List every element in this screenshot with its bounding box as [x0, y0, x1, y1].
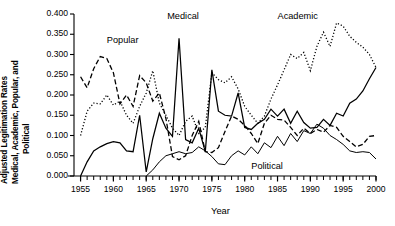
y-axis-tick-label: 0.050	[32, 150, 68, 160]
y-axis-tick-label: 0.300	[32, 49, 68, 59]
x-axis-tick-label: 1970	[163, 184, 195, 194]
x-axis-tick-label: 1975	[196, 184, 228, 194]
series-label-political: Political	[251, 161, 283, 171]
y-axis-tick-label: 0.400	[32, 8, 68, 18]
y-axis-tick-label: 0.200	[32, 89, 68, 99]
x-axis-tick-label: 1985	[262, 184, 294, 194]
x-axis-tick-label: 1990	[294, 184, 326, 194]
chart-figure: Adjusted Legitimation Rates Medical, Aca…	[0, 0, 395, 226]
y-axis-tick-label: 0.100	[32, 130, 68, 140]
series-line-popular	[81, 57, 376, 160]
y-axis-tick-label: 0.250	[32, 69, 68, 79]
series-label-academic: Academic	[278, 11, 318, 21]
y-axis-tick-label: 0.000	[32, 170, 68, 180]
y-axis-tick-label: 0.150	[32, 109, 68, 119]
y-axis-tick-label: 0.350	[32, 28, 68, 38]
x-axis-tick-label: 1960	[97, 184, 129, 194]
series-label-popular: Popular	[107, 35, 139, 45]
series-label-medical: Medical	[167, 11, 199, 21]
x-axis-title: Year	[211, 205, 230, 216]
x-axis-tick-label: 1955	[65, 184, 97, 194]
x-axis-tick-label: 1980	[229, 184, 261, 194]
x-axis-tick-label: 2000	[360, 184, 392, 194]
series-line-medical	[81, 38, 376, 176]
x-axis-tick-label: 1995	[327, 184, 359, 194]
x-axis-tick-label: 1965	[130, 184, 162, 194]
